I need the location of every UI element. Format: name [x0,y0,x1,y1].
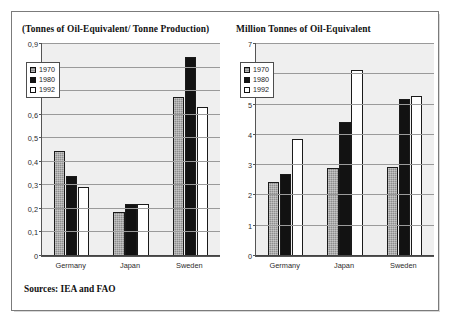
gridline [42,67,220,68]
y-axis-tick-label: 3 [248,161,252,170]
figure-frame: (Tonnes of Oil-Equivalent/ Tonne Product… [11,11,439,311]
legend-label-1970: 1970 [253,65,269,75]
gridline [42,137,220,138]
category-label-germany: Germany [55,261,85,270]
gridline [42,43,220,44]
gray-swatch-icon [244,67,250,73]
gridline [256,134,434,135]
bar-japan-1970 [113,212,125,256]
bar-germany-1980 [66,176,78,256]
axis-tick [39,137,42,138]
y-axis-tick-label: 5 [248,100,252,109]
legend-label-1980: 1980 [253,75,269,85]
bar-sweden-1992 [411,96,423,257]
gridline [42,208,220,209]
bar-germany-1992 [78,187,90,256]
legend-label-1992: 1992 [39,85,55,95]
y-axis-tick-label: 0,5 [28,134,38,143]
gridline [256,43,434,44]
chart-title-left: (Tonnes of Oil-Equivalent/ Tonne Product… [22,24,209,34]
y-axis-tick-label: 0,3 [28,181,38,190]
bar-germany-1970 [54,151,66,256]
bars-layer-left [42,44,220,256]
axis-tick [253,43,256,44]
axis-tick [39,184,42,185]
y-axis-tick-label: 0,6 [28,110,38,119]
axis-tick [39,43,42,44]
y-axis-tick-label: 0 [34,252,38,261]
gridline [42,184,220,185]
legend-label-1992: 1992 [253,85,269,95]
bar-sweden-1980 [399,99,411,256]
axis-tick [39,208,42,209]
x-axis-categories-right: GermanyJapanSweden [255,258,434,272]
white-swatch-icon [30,87,36,93]
legend-item-1992: 1992 [30,85,55,95]
y-axis-tick-label: 4 [248,130,252,139]
gridline [42,90,220,91]
bar-sweden-1980 [185,57,197,256]
category-label-germany: Germany [269,261,299,270]
axis-tick [39,231,42,232]
chart-panel-right: Million Tonnes of Oil-Equivalent 0123456… [226,12,440,274]
bar-sweden-1970 [387,167,399,256]
bar-germany-1980 [280,174,292,256]
axis-tick [253,194,256,195]
axis-tick [253,134,256,135]
legend-item-1970: 1970 [30,65,55,75]
bar-sweden-1992 [197,107,209,256]
bar-japan-1980 [339,122,351,256]
gridline [42,161,220,162]
y-axis-tick-label: 1 [248,221,252,230]
y-axis-tick-label: 2 [248,191,252,200]
white-swatch-icon [244,87,250,93]
bar-germany-1970 [268,182,280,256]
axis-tick [253,164,256,165]
gridline [256,194,434,195]
black-swatch-icon [30,77,36,83]
legend-item-1980: 1980 [244,75,269,85]
plot-wrapper-left: 00,10,20,30,40,50,60,70,80,9 GermanyJapa… [20,44,220,256]
axis-tick [39,255,42,256]
gray-swatch-icon [30,67,36,73]
axis-tick [253,225,256,226]
y-axis-tick-label: 7 [248,40,252,49]
plot-area-left [41,44,220,257]
category-label-japan: Japan [120,261,140,270]
bar-japan-1970 [327,168,339,256]
bar-germany-1992 [292,139,304,256]
gridline [256,73,434,74]
axis-tick [253,255,256,256]
category-label-sweden: Sweden [390,261,417,270]
y-axis-tick-label: 0,1 [28,228,38,237]
category-label-sweden: Sweden [176,261,203,270]
legend-label-1980: 1980 [39,75,55,85]
bar-japan-1992 [137,204,149,256]
category-label-japan: Japan [334,261,354,270]
axis-tick [39,161,42,162]
gridline [42,255,220,256]
gridline [42,231,220,232]
plot-area-right [255,44,434,257]
y-axis-tick-label: 0,2 [28,204,38,213]
y-axis-tick-label: 0,9 [28,40,38,49]
gridline [42,114,220,115]
y-axis-tick-label: 0,4 [28,157,38,166]
gridline [256,255,434,256]
legend-left: 1970 1980 1992 [26,62,60,98]
legend-label-1970: 1970 [39,65,55,75]
chart-panel-left: (Tonnes of Oil-Equivalent/ Tonne Product… [12,12,226,274]
legend-item-1970: 1970 [244,65,269,75]
x-axis-categories-left: GermanyJapanSweden [41,258,220,272]
gridline [256,164,434,165]
chart-title-right: Million Tonnes of Oil-Equivalent [236,24,371,34]
axis-tick [253,104,256,105]
bar-japan-1992 [351,70,363,256]
legend-right: 1970 1980 1992 [240,62,274,98]
plot-wrapper-right: 01234567 GermanyJapanSweden 1970 1980 19… [234,44,434,256]
gridline [256,104,434,105]
y-axis-tick-label: 0 [248,252,252,261]
black-swatch-icon [244,77,250,83]
legend-item-1992: 1992 [244,85,269,95]
source-note: Sources: IEA and FAO [24,284,116,294]
